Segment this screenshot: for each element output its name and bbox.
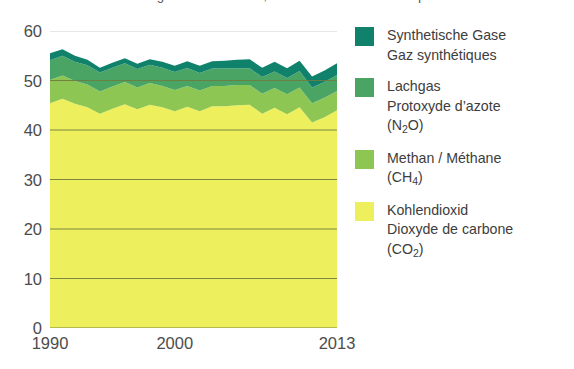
y-axis-tick-label: 30	[24, 170, 42, 189]
legend-label-line: Synthetische Gase	[387, 26, 506, 46]
legend-item[interactable]: LachgasProtoxyde d’azote(N2O)	[355, 77, 570, 137]
legend-item[interactable]: Synthetische GaseGaz synthétiques	[355, 26, 570, 65]
legend-label-line: Methan / Méthane	[387, 149, 501, 169]
y-axis-tick-label: 40	[24, 121, 42, 140]
greenhouse-gas-emissions-chart: Emissionen von Treibhausgasen nach Gasen…	[0, 0, 574, 369]
legend-label-line: Kohlendioxid	[387, 201, 513, 221]
legend-label-line: (CH4)	[387, 168, 501, 189]
x-axis: 199020002013	[0, 334, 360, 360]
legend-item[interactable]: Methan / Méthane(CH4)	[355, 149, 570, 189]
x-axis-tick-label: 2013	[319, 334, 356, 353]
stacked-area-svg	[50, 31, 337, 328]
legend-label-line: Lachgas	[387, 77, 501, 97]
legend-label-line: Dioxyde de carbone	[387, 220, 513, 240]
legend-label: LachgasProtoxyde d’azote(N2O)	[387, 77, 501, 137]
chart-title: Emissionen von Treibhausgasen nach Gasen…	[8, 0, 568, 3]
chart-legend: Synthetische GaseGaz synthétiquesLachgas…	[355, 26, 570, 272]
x-axis-tick-label: 2000	[156, 334, 193, 353]
plot-area	[50, 31, 337, 328]
y-axis-tick-label: 60	[24, 22, 42, 41]
legend-label-line: (N2O)	[387, 116, 501, 137]
legend-label-line: Protoxyde d’azote	[387, 97, 501, 117]
area-band	[50, 99, 337, 328]
y-axis-tick-label: 10	[24, 269, 42, 288]
legend-swatch-icon	[355, 78, 374, 97]
legend-label: Methan / Méthane(CH4)	[387, 149, 501, 189]
legend-label-line: Gaz synthétiques	[387, 46, 506, 66]
y-axis: 0102030405060	[0, 31, 42, 328]
legend-label: KohlendioxidDioxyde de carbone(CO2)	[387, 201, 513, 261]
y-axis-tick-label: 20	[24, 220, 42, 239]
y-axis-tick-label: 50	[24, 71, 42, 90]
legend-swatch-icon	[355, 150, 374, 169]
legend-swatch-icon	[355, 202, 374, 221]
legend-label-line: (CO2)	[387, 240, 513, 261]
x-axis-tick-label: 1990	[32, 334, 69, 353]
legend-label: Synthetische GaseGaz synthétiques	[387, 26, 506, 65]
legend-item[interactable]: KohlendioxidDioxyde de carbone(CO2)	[355, 201, 570, 261]
legend-swatch-icon	[355, 27, 374, 46]
